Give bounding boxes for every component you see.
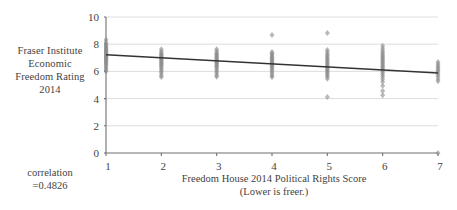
y-axis-title: Fraser Institute Economic Freedom Rating… [2, 44, 98, 96]
data-point [325, 94, 330, 100]
y-tick-label: 4 [94, 93, 100, 105]
x-axis-title-note: (Lower is freer.) [104, 185, 444, 198]
x-tick-label: 3 [216, 160, 222, 172]
y-axis-title-line-4: 2014 [2, 83, 98, 96]
data-point [325, 30, 330, 36]
data-points [104, 30, 440, 156]
plot-canvas [104, 14, 444, 156]
x-tick-label: 1 [105, 160, 111, 172]
correlation-value: =0.4826 [2, 179, 98, 192]
data-point [436, 150, 441, 156]
x-tick-label: 7 [437, 160, 443, 172]
y-tick-label: 10 [88, 11, 99, 23]
x-tick-label: 2 [161, 160, 167, 172]
y-tick-label: 2 [94, 120, 100, 132]
y-axis-title-line-2: Economic [2, 57, 98, 70]
figure-caption [0, 202, 457, 210]
x-axis-title: Freedom House 2014 Political Rights Scor… [104, 172, 444, 198]
y-tick-label: 6 [94, 65, 100, 77]
y-tick-label: 8 [94, 38, 100, 50]
data-point [380, 92, 385, 98]
y-axis-title-line-3: Freedom Rating [2, 70, 98, 83]
correlation-label: correlation [2, 166, 98, 179]
x-tick-label: 4 [271, 160, 277, 172]
scatter-plot-figure: Fraser Institute Economic Freedom Rating… [0, 0, 457, 210]
x-axis-title-line-1: Freedom House 2014 Political Rights Scor… [104, 172, 444, 185]
data-point [270, 32, 275, 38]
correlation-annotation: correlation =0.4826 [2, 166, 98, 192]
x-tick-label: 5 [327, 160, 333, 172]
data-point [380, 83, 385, 89]
y-tick-label: 0 [94, 147, 100, 159]
plot-area: 0246810 1234567 [104, 14, 444, 156]
y-axis-title-line-1: Fraser Institute [2, 44, 98, 57]
x-tick-label: 6 [382, 160, 388, 172]
